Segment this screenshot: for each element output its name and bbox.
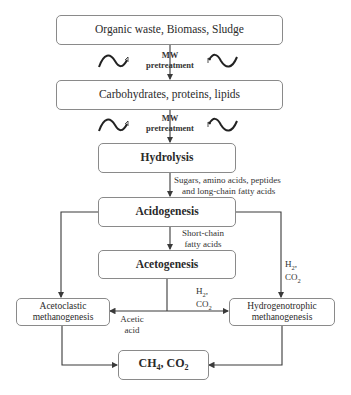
node-hydrogenotrophic-line2: methanogenesis (252, 312, 313, 323)
microwave-wave-icon (97, 116, 131, 136)
hydrolysis-products-label: Sugars, amino acids, peptides and long-c… (174, 175, 281, 197)
node-acidogenesis-label: Acidogenesis (135, 205, 198, 218)
node-products-label: CH4, CO2 (139, 357, 189, 373)
microwave-wave-icon (97, 52, 131, 72)
h2-co2-mid-label: H2, CO2 (196, 286, 212, 311)
microwave-wave-icon (205, 52, 239, 72)
node-products: CH4, CO2 (118, 350, 209, 380)
node-hydrogenotrophic: Hydrogenotrophic methanogenesis (229, 298, 335, 326)
microwave-wave-icon (205, 116, 239, 136)
node-acetoclastic-line2: methanogenesis (33, 312, 94, 323)
node-macromolecules-label: Carbohydrates, proteins, lipids (99, 88, 240, 101)
acetic-acid-label: Acetic acid (114, 314, 150, 336)
pretreatment-label-2: MW pretreatment (136, 113, 204, 133)
node-acetogenesis: Acetogenesis (98, 250, 236, 279)
node-acetogenesis-label: Acetogenesis (136, 258, 199, 271)
node-hydrolysis-label: Hydrolysis (141, 151, 194, 164)
node-acidogenesis: Acidogenesis (98, 197, 236, 227)
node-hydrolysis: Hydrolysis (98, 143, 236, 173)
node-hydrogenotrophic-line1: Hydrogenotrophic (247, 301, 317, 312)
node-acetoclastic: Acetoclastic methanogenesis (16, 298, 110, 326)
node-feedstock-label: Organic waste, Biomass, Sludge (95, 23, 244, 36)
node-feedstock: Organic waste, Biomass, Sludge (56, 15, 283, 45)
pretreatment-label-1: MW pretreatment (136, 50, 204, 70)
node-macromolecules: Carbohydrates, proteins, lipids (56, 80, 283, 110)
node-acetoclastic-line1: Acetoclastic (40, 301, 87, 312)
short-chain-label: Short-chain fatty acids (175, 228, 231, 250)
h2-co2-right-label: H2, CO2 (285, 259, 301, 284)
